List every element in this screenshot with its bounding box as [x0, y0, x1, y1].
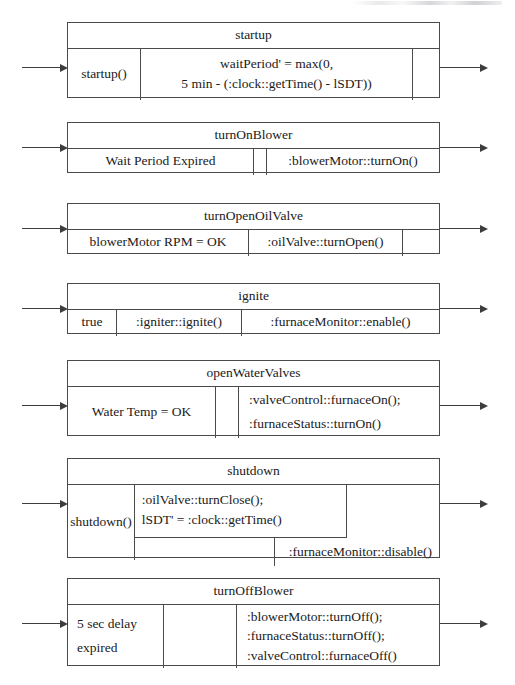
transition-arrow-in [22, 223, 68, 234]
action-cell: :oilValve::turnOpen() [248, 230, 402, 256]
block-turnOpenOilValve: turnOpenOilValve blowerMotor RPM = OK :o… [67, 203, 440, 254]
action-cell: :oilValve::turnClose(); lSDT' = :clock::… [135, 485, 347, 539]
trailing-cell [412, 49, 439, 100]
transition-arrow-in [22, 400, 68, 411]
block-title: startup [68, 23, 439, 49]
block-title: ignite [68, 284, 439, 310]
transition-arrow-out [440, 498, 488, 509]
guard-cell: Water Temp = OK [68, 387, 215, 438]
block-startup: startup startup() waitPeriod' = max(0, 5… [67, 22, 440, 98]
block-title: turnOffBlower [68, 579, 439, 605]
guard-cell: startup() [68, 49, 140, 100]
guard-cell: blowerMotor RPM = OK [68, 230, 248, 256]
action-cell: :blowerMotor::turnOff(); :furnaceStatus:… [236, 605, 439, 668]
transition-arrow-in [22, 498, 68, 509]
guard-cell: shutdown() [68, 485, 135, 560]
guard-cell: Wait Period Expired [68, 149, 253, 175]
transition-arrow-out [440, 142, 488, 153]
block-title: openWaterValves [68, 361, 439, 387]
transition-arrow-in [22, 303, 68, 314]
block-turnOnBlower: turnOnBlower Wait Period Expired :blower… [67, 122, 440, 173]
spacer-cell [163, 605, 236, 668]
spacer-cell [215, 387, 238, 438]
action-cell-2: :furnaceMonitor::enable() [241, 310, 439, 336]
scan-artifact [352, 1, 502, 5]
spacer-cell [253, 149, 266, 175]
block-openWaterValves: openWaterValves Water Temp = OK :valveCo… [67, 360, 440, 436]
transition-arrow-out [440, 400, 488, 411]
transition-arrow-in [22, 142, 68, 153]
block-title: turnOpenOilValve [68, 204, 439, 230]
action-cell: :blowerMotor::turnOn() [266, 149, 439, 175]
transition-arrow-in [22, 618, 68, 629]
block-ignite: ignite true :igniter::ignite() :furnaceM… [67, 283, 440, 334]
block-title: shutdown [68, 459, 439, 485]
block-title: turnOnBlower [68, 123, 439, 149]
guard-cell: true [68, 310, 116, 336]
transition-arrow-out [440, 303, 488, 314]
action-cell: :igniter::ignite() [116, 310, 241, 336]
transition-arrow-out [440, 618, 488, 629]
block-shutdown: shutdown shutdown() :oilValve::turnClose… [67, 458, 440, 558]
action-cell: :valveControl::furnaceOn(); :furnaceStat… [238, 387, 439, 438]
action-cell: waitPeriod' = max(0, 5 min - (:clock::ge… [140, 49, 412, 100]
transition-arrow-in [22, 62, 68, 73]
action-cell-2: :furnaceMonitor::disable() [274, 538, 439, 565]
transition-arrow-out [440, 223, 488, 234]
trailing-cell [402, 230, 439, 256]
guard-cell: 5 sec delay expired [68, 605, 163, 668]
block-turnOffBlower: turnOffBlower 5 sec delay expired :blowe… [67, 578, 440, 666]
transition-arrow-out [440, 62, 488, 73]
